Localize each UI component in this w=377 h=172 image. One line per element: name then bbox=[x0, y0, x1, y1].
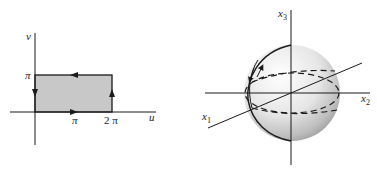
u-tick-pi: π bbox=[72, 114, 78, 126]
sphere-diagram: x3 x2 x1 bbox=[201, 7, 370, 165]
v-axis-label: v bbox=[26, 30, 31, 42]
x1-axis-label: x1 bbox=[201, 110, 211, 125]
v-tick-pi: π bbox=[25, 69, 31, 81]
u-tick-2pi: 2 π bbox=[104, 114, 118, 126]
parameter-domain-diagram: v u π π 2 π bbox=[10, 30, 156, 145]
parameter-rectangle bbox=[35, 75, 112, 112]
figure-canvas: v u π π 2 π x3 x2 x1 bbox=[0, 0, 377, 172]
x2-axis-label: x2 bbox=[360, 92, 370, 107]
x3-axis-label: x3 bbox=[277, 7, 287, 22]
u-axis-label: u bbox=[149, 111, 155, 123]
